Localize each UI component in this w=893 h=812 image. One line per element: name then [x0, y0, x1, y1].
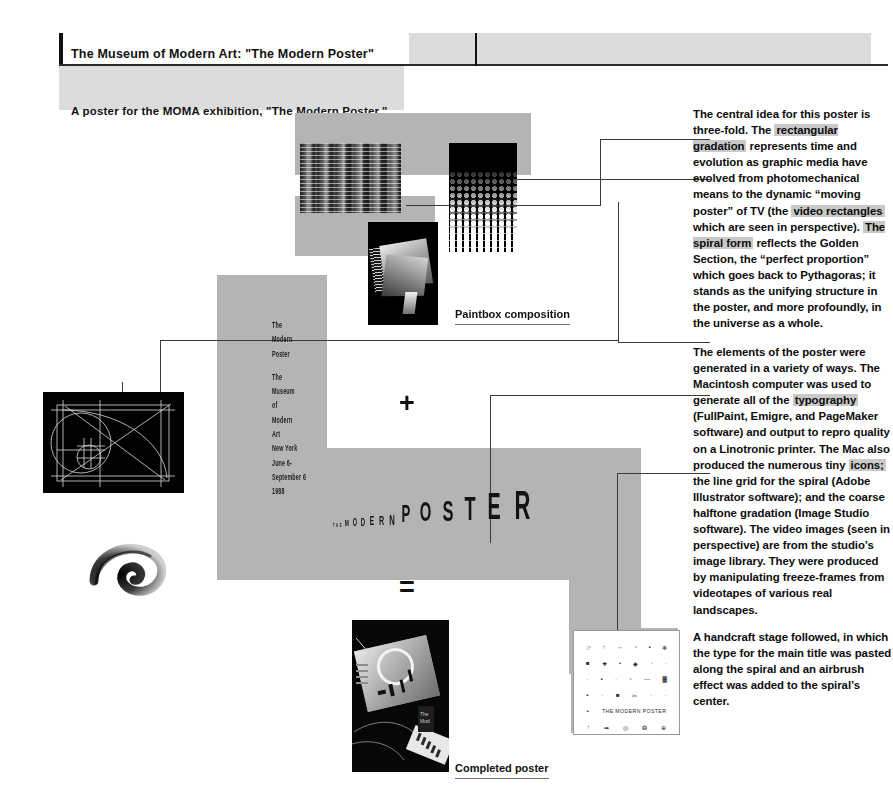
filled-square-icon: ■ — [586, 660, 590, 666]
square-icon-5: ■ — [616, 692, 620, 698]
poster-main-title: THEMODERNPOSTER — [332, 488, 539, 528]
period-icon-3: · — [615, 676, 617, 682]
airbrush-spiral-image — [88, 539, 184, 601]
icon-grid-row-5: ▪ THE MODERN POSTER — [580, 703, 673, 719]
period-icon-6: · — [665, 692, 667, 698]
title-letter: S — [442, 494, 453, 528]
diamond-icon: ❖ — [602, 660, 607, 667]
paragraph-text: A handcraft stage followed, in which the… — [693, 629, 893, 709]
arrow-right-icon: ➡ — [604, 724, 609, 731]
title-letter: H — [336, 522, 338, 528]
square-icon-2: ▪ — [601, 676, 603, 682]
bullet-icon: • — [619, 660, 621, 666]
highlighted-term: icons; — [849, 459, 886, 471]
icon-grid-row-3: · ▪ · ▫ — ▓ — [580, 671, 673, 687]
icon-grid-row-1: ☞ ↑ ↔ ▫ ▪ ✻ — [580, 639, 673, 655]
title-letter: E — [370, 514, 374, 528]
plus-operator: + — [399, 390, 415, 417]
video-highlight — [403, 292, 418, 314]
vtype-gap — [272, 361, 309, 370]
title-letter: T — [333, 522, 335, 528]
vtype-line: Art — [272, 427, 309, 441]
caption-completed: Completed poster — [455, 762, 549, 779]
highlighted-term: typography — [793, 394, 859, 406]
halftone-dots-lower — [449, 195, 517, 252]
video-rectangles-image — [368, 222, 438, 325]
vtype-line: September 6 — [272, 470, 309, 484]
vtype-line: June 6- — [272, 456, 309, 470]
scissors-icon: ✂ — [632, 692, 637, 699]
body-text-run: A handcraft stage followed, in which the… — [693, 631, 891, 707]
svg-text:The: The — [420, 711, 429, 717]
vtype-line: New York — [272, 441, 309, 455]
arrow-up-icon-2: ↑ — [587, 724, 590, 730]
golden-section-line-grid-image — [43, 392, 184, 493]
header-gray-block-right — [403, 33, 871, 65]
poster-vertical-type: The Modern Poster The Museum of Modern A… — [272, 318, 309, 499]
body-paragraph-1: The central idea for this poster is thre… — [693, 106, 893, 347]
vtype-line: Modern — [272, 413, 309, 427]
vtype-line: Museum — [272, 384, 309, 398]
connector-line-1v — [600, 139, 601, 205]
vtype-line: The — [272, 318, 309, 332]
plus-circle-icon: ⊕ — [661, 724, 666, 731]
caption-paintbox: Paintbox composition — [455, 308, 570, 325]
title-letter: O — [353, 517, 357, 528]
body-paragraph-2: The elements of the poster were generate… — [693, 344, 893, 634]
period-icon-2: · — [586, 676, 588, 682]
square-icon-3: ▫ — [630, 676, 632, 682]
paragraph-text: The central idea for this poster is thre… — [693, 106, 893, 331]
vtype-line: of — [272, 398, 309, 412]
dot-icon: ▪ — [648, 644, 650, 650]
vtype-line: 1988 — [272, 484, 309, 498]
connector-line-4v — [618, 202, 619, 342]
highlighted-term: video rectangles — [791, 205, 884, 217]
icon-grid-row-2: ■ ❖ • ◆ ◦ · — [580, 655, 673, 671]
flower-icon: ❂ — [642, 724, 647, 731]
completed-poster-svg: TheMod — [352, 620, 449, 772]
connector-line-6h — [490, 395, 710, 396]
title-letter: E — [340, 522, 342, 528]
vtype-line: Poster — [272, 347, 309, 361]
connector-line-3h — [517, 179, 710, 180]
title-letter: M — [345, 518, 349, 528]
title-letter: P — [401, 500, 410, 528]
dash-icon: — — [644, 676, 650, 682]
title-letter: R — [514, 483, 530, 528]
title-letter: T — [464, 490, 475, 528]
tiny-icons-card: ☞ ↑ ↔ ▫ ▪ ✻ ■ ❖ • ◆ ◦ · · ▪ · ▫ — ▓ — [573, 630, 680, 735]
period-icon-4: · — [601, 692, 603, 698]
vtype-line: Modern — [272, 332, 309, 346]
square-icon-6: ▪ — [587, 708, 589, 714]
connector-line-5h — [160, 340, 618, 341]
square-icon-4: ▪ — [586, 692, 588, 698]
icon-grid-row-6: ↑ ➡ ◎ ❂ ⊕ — [580, 719, 673, 735]
gradation-highlights — [300, 143, 401, 213]
coarse-halftone-gradation-image — [449, 143, 517, 252]
period-icon: · — [665, 660, 667, 666]
connector-line-7v — [617, 473, 618, 633]
body-text-run: the line grid for the spiral (Adobe Illu… — [693, 475, 890, 616]
completed-poster-photo: TheMod — [352, 620, 449, 772]
icon-grid-row-4: ▪ · ■ ✂ · · — [580, 687, 673, 703]
title-letter: O — [420, 497, 432, 528]
header-gray-block-left — [59, 66, 404, 110]
svg-text:Mod: Mod — [420, 718, 430, 724]
equals-operator: = — [399, 574, 415, 601]
period-icon-5: · — [650, 692, 652, 698]
small-square-icon: ▫ — [635, 644, 637, 650]
vtype-line: The — [272, 370, 309, 384]
video-rectangle-b — [381, 254, 428, 296]
body-text-run: reflects the Golden Section, the “perfec… — [693, 237, 882, 329]
connector-line-5v — [160, 340, 161, 395]
icon-grid: ☞ ↑ ↔ ▫ ▪ ✻ ■ ❖ • ◆ ◦ · · ▪ · ▫ — ▓ — [580, 639, 673, 728]
header-horizontal-rule — [59, 64, 888, 66]
title-letter: R — [379, 513, 384, 528]
asterisk-icon: ✻ — [662, 644, 667, 651]
circle-icon: ◦ — [651, 660, 653, 666]
body-text-run: which are seen in perspective). — [693, 221, 863, 233]
target-icon: ◎ — [623, 724, 628, 731]
title-letter: E — [487, 486, 500, 528]
page-title: The Museum of Modern Art: "The Modern Po… — [71, 47, 374, 61]
